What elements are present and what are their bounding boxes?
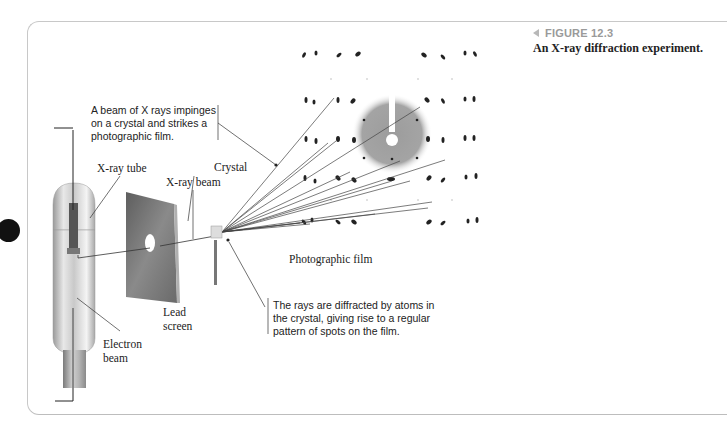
- label-xray-tube: X-ray tube: [97, 161, 147, 175]
- top-callout-line: on a crystal and strikes a: [91, 117, 216, 130]
- bottom-callout-line: the crystal, giving rise to a regular: [273, 312, 434, 325]
- lead-screen: [126, 192, 180, 303]
- bottom-callout-line: The rays are diffracted by atoms in: [273, 299, 434, 312]
- figure-caption: An X-ray diffraction experiment.: [533, 41, 703, 56]
- label-crystal: Crystal: [214, 160, 247, 174]
- label-electron-beam: Electron beam: [103, 337, 142, 365]
- diffraction-pattern: [301, 51, 479, 227]
- top-rule: [40, 21, 699, 22]
- label-xray-beam: X-ray beam: [166, 175, 221, 189]
- label-electron-beam-line: Electron: [103, 337, 142, 351]
- bottom-callout-line: pattern of spots on the film.: [273, 325, 434, 338]
- label-lead-screen: Lead screen: [163, 305, 192, 333]
- figure-number: FIGURE 12.3: [533, 27, 613, 39]
- xray-tube: [53, 128, 95, 401]
- label-photographic-film: Photographic film: [289, 252, 372, 266]
- crystal: [211, 226, 230, 285]
- figure-number-text: FIGURE 12.3: [545, 27, 613, 39]
- top-callout-line: A beam of X rays impinges: [91, 104, 216, 117]
- label-lead-screen-line: screen: [163, 319, 192, 333]
- label-lead-screen-line: Lead: [163, 305, 192, 319]
- top-callout-line: photographic film.: [91, 130, 216, 143]
- triangle-marker-icon: [533, 29, 539, 37]
- bottom-callout: The rays are diffracted by atoms in the …: [273, 299, 434, 338]
- top-callout: A beam of X rays impinges on a crystal a…: [91, 104, 216, 143]
- label-electron-beam-line: beam: [103, 351, 142, 365]
